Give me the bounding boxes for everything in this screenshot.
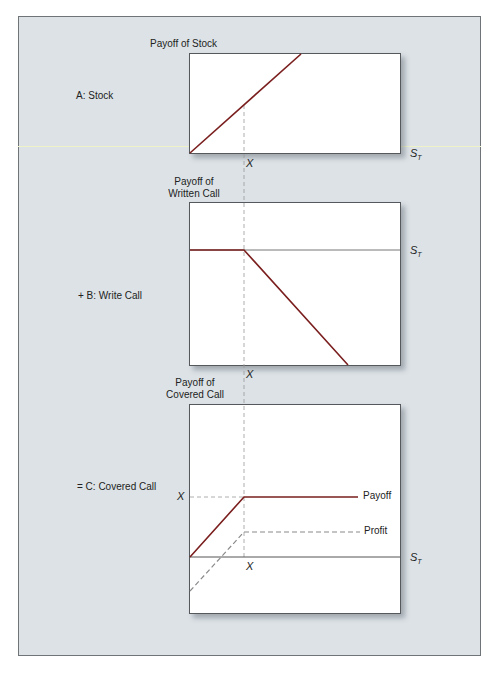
axis-label-written-call: ST	[410, 244, 422, 258]
payoff-lines	[0, 0, 496, 675]
x-tick-stock: X	[246, 157, 253, 169]
axis-label-covered-call: ST	[410, 551, 422, 565]
x-tick-written-call: X	[246, 368, 253, 380]
axis-label-stock: ST	[410, 147, 422, 161]
legend-profit: Profit	[364, 525, 387, 536]
legend-payoff: Payoff	[363, 490, 391, 501]
y-tick-covered-call: X	[177, 490, 184, 502]
x-tick-covered-call: X	[246, 560, 253, 572]
